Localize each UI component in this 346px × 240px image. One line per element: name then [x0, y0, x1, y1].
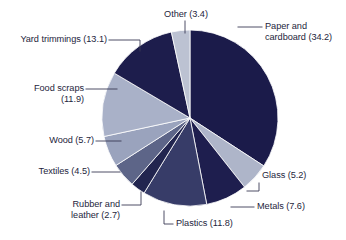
- leader-line-plastics: [164, 211, 173, 224]
- pie-label-other-text: Other (3.4): [164, 9, 208, 19]
- pie-label-textiles-text: Textiles (4.5): [39, 166, 90, 176]
- pie-label-yard-trimmings-text: Yard trimmings (13.1): [20, 34, 107, 44]
- pie-label-paper-and-cardboard-line2: cardboard (34.2): [265, 32, 332, 42]
- pie-label-paper-and-cardboard: Paper and cardboard (34.2): [265, 21, 345, 44]
- pie-label-wood: Wood (5.7): [2, 135, 94, 146]
- pie-label-metals-text: Metals (7.6): [257, 201, 305, 211]
- pie-label-food-scraps-line1: Food scraps: [34, 83, 84, 93]
- pie-label-yard-trimmings: Yard trimmings (13.1): [2, 34, 107, 45]
- leader-line-glass: [247, 183, 259, 191]
- pie-label-textiles: Textiles (4.5): [2, 166, 90, 177]
- pie-label-other: Other (3.4): [148, 9, 224, 20]
- pie-label-rubber-and-leather-line2: leather (2.7): [71, 210, 120, 220]
- pie-label-glass-text: Glass (5.2): [262, 170, 306, 180]
- pie-label-glass: Glass (5.2): [262, 170, 342, 181]
- pie-slices: [102, 30, 278, 206]
- pie-label-wood-text: Wood (5.7): [49, 135, 94, 145]
- pie-label-rubber-and-leather: Rubber and leather (2.7): [32, 199, 120, 222]
- leader-line-rubber-and-leather: [122, 192, 141, 205]
- pie-label-food-scraps-line2: (11.9): [61, 94, 84, 104]
- pie-label-food-scraps: Food scraps (11.9): [2, 83, 84, 106]
- pie-label-plastics-text: Plastics (11.8): [176, 218, 233, 228]
- pie-chart-figure: Other (3.4) Paper and cardboard (34.2) Y…: [0, 0, 346, 240]
- pie-label-rubber-and-leather-line1: Rubber and: [72, 199, 120, 209]
- pie-label-paper-and-cardboard-line1: Paper and: [265, 21, 307, 31]
- pie-label-metals: Metals (7.6): [257, 201, 337, 212]
- pie-label-plastics: Plastics (11.8): [176, 218, 262, 229]
